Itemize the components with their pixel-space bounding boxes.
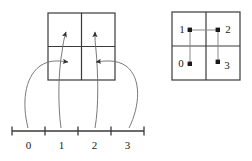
- right-square-label-3: 3: [222, 60, 232, 71]
- dot-point-2: [216, 28, 220, 32]
- zorder-path: [190, 30, 218, 64]
- dot-point-1: [188, 28, 192, 32]
- axis-interval-label-3: 3: [121, 140, 135, 151]
- axis-interval-label-2: 2: [88, 140, 102, 151]
- figure-canvas: [0, 0, 252, 161]
- axis-interval-label-0: 0: [22, 140, 36, 151]
- zorder-point-dots: [188, 28, 220, 66]
- left-square-group: [48, 13, 115, 80]
- number-line-group: [12, 127, 144, 136]
- dot-point-0: [188, 62, 192, 66]
- curve-interval-3-to-bottom-right: [96, 61, 138, 128]
- axis-interval-label-1: 1: [55, 140, 69, 151]
- zorder-curve-figure: 1 2 0 3 0 1 2 3: [0, 0, 252, 161]
- right-square-label-0: 0: [176, 58, 186, 69]
- right-square-label-1: 1: [177, 24, 187, 35]
- curve-interval-0-to-bottom-left: [25, 61, 68, 128]
- dot-point-3: [216, 60, 220, 64]
- right-square-label-2: 2: [223, 24, 233, 35]
